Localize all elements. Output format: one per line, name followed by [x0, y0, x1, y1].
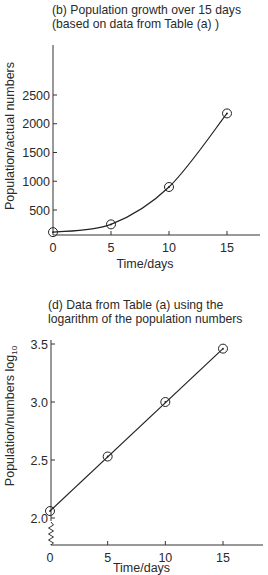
x-axis-label: Time/days — [116, 257, 173, 271]
x-tick-label: 0 — [47, 551, 54, 565]
y-tick-label: 1500 — [22, 146, 50, 160]
x-axis-label: Time/days — [113, 561, 170, 575]
y-tick-label: 2.0 — [31, 512, 48, 526]
y-tick-label: 2.5 — [31, 454, 48, 468]
y-tick-label: 1000 — [22, 175, 50, 189]
y-tick-label: 3.0 — [31, 396, 48, 410]
chart-plot-d: 0510152.02.53.03.5Time/daysPopulation/nu… — [0, 290, 268, 575]
y-tick-label: 2500 — [22, 89, 50, 103]
x-tick-label: 15 — [216, 551, 230, 565]
data-curve — [53, 113, 227, 232]
x-tick-label: 5 — [108, 241, 115, 255]
y-tick-label: 2000 — [22, 117, 50, 131]
y-tick-label: 500 — [29, 204, 50, 218]
y-tick-label: 3.5 — [31, 338, 48, 352]
x-tick-label: 15 — [220, 241, 234, 255]
chart-panel-d: (d) Data from Table (a) using the logari… — [0, 290, 268, 575]
chart-panel-b: (b) Population growth over 15 days (base… — [0, 0, 268, 290]
x-tick-label: 5 — [104, 551, 111, 565]
data-curve — [50, 349, 223, 511]
x-tick-label: 10 — [162, 241, 176, 255]
x-tick-label: 0 — [50, 241, 57, 255]
chart-plot-b: 0510155001000150020002500Time/daysPopula… — [0, 0, 268, 290]
y-axis-label: Population/numbers log10 — [3, 345, 19, 486]
y-axis-label: Population/actual numbers — [3, 62, 17, 210]
